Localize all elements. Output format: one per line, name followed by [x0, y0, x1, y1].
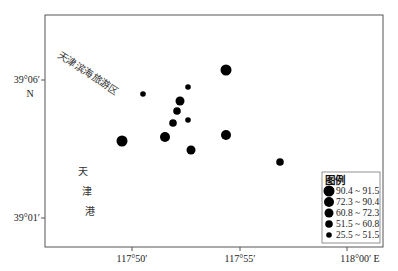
- port-label-char: 港: [85, 206, 95, 217]
- sample-point: [160, 132, 170, 142]
- y-tick-label: 39°06′: [14, 74, 40, 85]
- legend-item-label: 51.5 ~ 60.8: [336, 219, 379, 229]
- y-tick-label: 39°01′: [14, 212, 40, 223]
- sample-point: [169, 119, 177, 127]
- legend: 图例 90.4 ~ 91.572.3 ~ 90.460.8 ~ 72.351.5…: [322, 172, 380, 243]
- sample-point: [187, 146, 196, 155]
- sample-point: [117, 136, 128, 147]
- sample-point: [185, 117, 191, 123]
- port-label-char: 津: [82, 186, 92, 197]
- legend-symbol-icon: [326, 232, 332, 238]
- legend-item-label: 25.5 ~ 51.5: [336, 230, 379, 240]
- sample-point: [176, 97, 185, 106]
- sample-point: [173, 107, 181, 115]
- sample-point: [221, 65, 232, 76]
- sample-point: [276, 158, 284, 166]
- legend-item-label: 72.3 ~ 90.4: [336, 197, 379, 207]
- y-tick-sublabel: N: [26, 88, 33, 99]
- y-axis: 39°06′ N 39°01′: [14, 74, 45, 223]
- sample-point: [221, 130, 231, 140]
- legend-symbol-icon: [324, 186, 335, 197]
- x-tick-label: 117°50′: [117, 253, 148, 264]
- legend-title: 图例: [325, 174, 345, 186]
- legend-symbol-icon: [324, 197, 334, 207]
- sample-point: [140, 91, 146, 97]
- port-label-char: 天: [78, 166, 88, 177]
- legend-item-label: 60.8 ~ 72.3: [336, 208, 379, 218]
- legend-symbol-icon: [325, 209, 334, 218]
- x-tick-label: 117°55′: [225, 253, 256, 264]
- x-axis: 117°50′ 117°55′ 118°00′ E: [117, 247, 380, 264]
- map-canvas: 117°50′ 117°55′ 118°00′ E 39°06′ N 39°01…: [0, 0, 398, 271]
- legend-item-label: 90.4 ~ 91.5: [336, 186, 379, 196]
- x-tick-label: 118°00′ E: [340, 253, 379, 264]
- legend-symbol-icon: [325, 220, 333, 228]
- sample-point: [185, 84, 191, 90]
